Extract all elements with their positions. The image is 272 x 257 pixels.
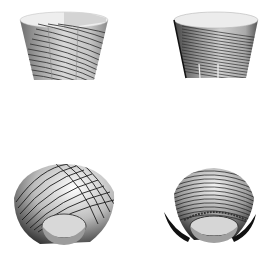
cup-render-dense (172, 10, 260, 82)
spiral-bowl-dense (160, 158, 260, 248)
faceted-cup-dense (172, 10, 260, 82)
cup-render (18, 10, 110, 84)
spiral-bowl-sparse (10, 152, 118, 248)
bowl-render (10, 152, 118, 248)
faceted-cup-sparse (18, 10, 110, 84)
bowl-render-dense (160, 158, 260, 248)
